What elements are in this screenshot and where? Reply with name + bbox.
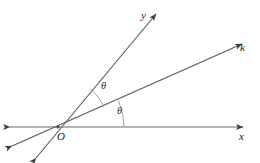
origin-label: O: [57, 131, 65, 142]
origin-point: [57, 126, 60, 129]
axis-lines-group: [10, 14, 243, 158]
geometry-canvas: [0, 0, 260, 163]
axis-label-k: k: [240, 42, 245, 53]
line-k: [12, 44, 242, 146]
axis-label-y: y: [141, 10, 146, 21]
line-y: [36, 14, 156, 158]
angle-label-lower: θ: [117, 106, 122, 117]
axis-label-x: x: [239, 131, 244, 142]
geometry-figure: y k x O θ θ: [0, 0, 260, 163]
angle-label-upper: θ: [101, 81, 106, 92]
